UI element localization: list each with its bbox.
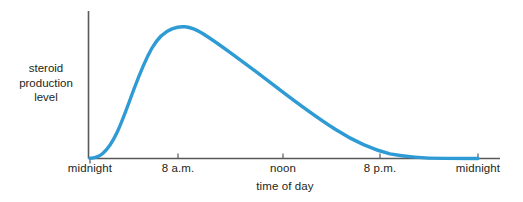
y-axis-label-line-1: steroid xyxy=(8,61,84,76)
series-line-steroid-production xyxy=(90,27,478,159)
chart-figure: steroid production level midnight 8 a.m.… xyxy=(0,0,523,202)
x-tick-label-8pm: 8 p.m. xyxy=(364,162,397,174)
x-tick-label-midnight-start: midnight xyxy=(68,162,112,174)
x-tick-label-midnight-end: midnight xyxy=(456,162,500,174)
y-axis-label-line-3: level xyxy=(8,90,84,105)
x-tick-label-8am: 8 a.m. xyxy=(162,162,195,174)
y-axis-label-line-2: production xyxy=(8,76,84,91)
y-axis-label: steroid production level xyxy=(8,61,84,105)
x-axis-label: time of day xyxy=(256,180,313,192)
x-tick-label-noon: noon xyxy=(270,162,296,174)
